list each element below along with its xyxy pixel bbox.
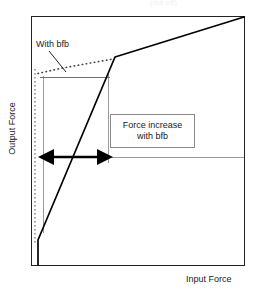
with-bfb-annotation-label: With bfb (36, 39, 69, 50)
callout-line-2: with bfb (137, 131, 168, 142)
force-increase-callout-box: Force increase with bfb (110, 114, 195, 148)
callout-line-1: Force increase (123, 120, 183, 131)
clipped-title-artifact: (cut off) (150, 0, 177, 8)
x-axis-label: Input Force (186, 274, 232, 285)
y-axis-label: Output Force (7, 98, 18, 160)
figure-container: (cut off) With bfb Force increase with b… (0, 0, 256, 292)
